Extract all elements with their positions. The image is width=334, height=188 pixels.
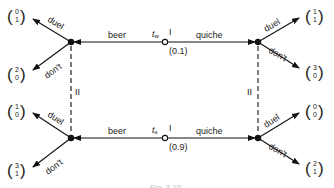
- action-label-dont-top-left: don't: [42, 61, 64, 81]
- svg-text:3: 3: [313, 64, 317, 71]
- payoff-bottom-left-duel: ( 1 0 ): [7, 102, 26, 121]
- svg-text:3: 3: [15, 162, 19, 169]
- svg-text:2: 2: [313, 160, 317, 167]
- svg-text:2: 2: [15, 66, 19, 73]
- svg-text:(: (: [305, 7, 311, 26]
- svg-text:): ): [20, 65, 26, 84]
- svg-text:0: 0: [15, 74, 19, 81]
- nature-node-ts: [162, 135, 167, 140]
- payoff-top-left-dont: ( 2 0 ): [7, 65, 26, 84]
- payoff-bottom-right-duel: ( 0 0 ): [305, 102, 324, 121]
- svg-text:): ): [318, 102, 324, 121]
- figure-caption: Fig. 3.10: [150, 183, 182, 188]
- svg-text:(: (: [7, 161, 13, 180]
- svg-text:(: (: [7, 7, 13, 26]
- svg-text:0: 0: [15, 111, 19, 118]
- svg-text:1: 1: [313, 16, 317, 23]
- svg-text:0: 0: [313, 111, 317, 118]
- svg-text:0: 0: [313, 72, 317, 79]
- action-label-quiche-top: quiche: [196, 30, 223, 40]
- player-label-ts: I: [169, 123, 172, 133]
- payoff-top-right-dont: ( 3 0 ): [305, 63, 324, 82]
- svg-text:1: 1: [15, 103, 19, 110]
- svg-text:): ): [20, 161, 26, 180]
- action-label-beer-bottom: beer: [108, 126, 126, 136]
- action-label-dont-top-right: don't: [267, 45, 289, 64]
- action-label-dont-bottom-right: don't: [267, 141, 289, 160]
- action-label-quiche-bottom: quiche: [196, 126, 223, 136]
- svg-text:(: (: [7, 102, 13, 121]
- probability-ts: (0.9): [169, 142, 188, 152]
- beer-quiche-game-tree: beer quiche tw I (0.1) duel don't duel d…: [0, 0, 334, 188]
- action-label-duel-bottom-right: duel: [262, 112, 282, 130]
- action-label-beer-top: beer: [108, 30, 126, 40]
- probability-tw: (0.1): [169, 46, 188, 56]
- svg-text:0: 0: [313, 103, 317, 110]
- payoff-top-left-duel: ( 0 1 ): [7, 7, 26, 26]
- info-set-label-left: II: [75, 87, 80, 97]
- action-label-duel-bottom-left: duel: [46, 109, 66, 127]
- svg-text:): ): [318, 159, 324, 178]
- payoff-bottom-left-dont: ( 3 1 ): [7, 161, 26, 180]
- svg-text:1: 1: [313, 8, 317, 15]
- svg-text:): ): [318, 63, 324, 82]
- player-label-tw: I: [169, 27, 172, 37]
- svg-text:): ): [20, 102, 26, 121]
- svg-text:): ): [20, 7, 26, 26]
- payoff-bottom-right-dont: ( 2 1 ): [305, 159, 324, 178]
- svg-text:): ): [318, 7, 324, 26]
- type-label-tw: tw: [152, 29, 160, 39]
- action-label-dont-bottom-left: don't: [43, 157, 65, 177]
- svg-text:1: 1: [15, 170, 19, 177]
- svg-text:1: 1: [15, 16, 19, 23]
- svg-text:0: 0: [15, 8, 19, 15]
- action-label-duel-top-right: duel: [262, 17, 282, 34]
- type-label-ts: ts: [152, 125, 158, 135]
- svg-text:(: (: [305, 159, 311, 178]
- payoff-top-right-duel: ( 1 1 ): [305, 7, 324, 26]
- svg-text:(: (: [305, 102, 311, 121]
- svg-text:(: (: [7, 65, 13, 84]
- svg-text:(: (: [305, 63, 311, 82]
- nature-node-tw: [162, 39, 167, 44]
- svg-text:1: 1: [313, 168, 317, 175]
- info-set-label-right: II: [247, 87, 252, 97]
